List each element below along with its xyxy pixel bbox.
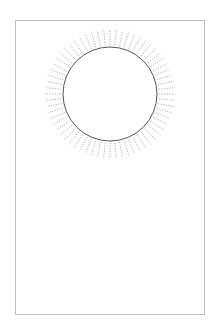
radial-tick bbox=[48, 75, 63, 80]
radial-tick bbox=[153, 117, 167, 125]
radial-tick bbox=[50, 113, 65, 119]
radial-tick bbox=[153, 63, 167, 71]
radial-tick bbox=[46, 104, 62, 107]
radial-tick bbox=[141, 132, 151, 144]
radial-tick bbox=[69, 132, 79, 144]
circle-diagram bbox=[0, 0, 224, 330]
radial-tick bbox=[148, 53, 160, 63]
radial-tick bbox=[124, 141, 129, 156]
radial-tick bbox=[115, 143, 117, 159]
radial-tick bbox=[45, 88, 61, 90]
radial-tick bbox=[79, 37, 87, 51]
radial-tick bbox=[120, 142, 123, 158]
radial-tick bbox=[141, 44, 151, 56]
radial-tick bbox=[50, 69, 65, 75]
circle-outline bbox=[63, 47, 157, 141]
radial-tick bbox=[97, 142, 100, 158]
radial-tick bbox=[85, 139, 91, 154]
radial-tick bbox=[129, 34, 135, 49]
radial-tick bbox=[91, 141, 96, 156]
radial-tick bbox=[133, 137, 141, 151]
radial-tick bbox=[157, 75, 172, 80]
radial-tick bbox=[124, 32, 129, 47]
radial-tick bbox=[157, 108, 172, 113]
radial-tick bbox=[97, 30, 100, 46]
radial-tick bbox=[79, 137, 87, 151]
radial-tick bbox=[45, 99, 61, 101]
radial-tick bbox=[115, 29, 117, 45]
radial-ticks bbox=[45, 29, 175, 159]
radial-tick bbox=[53, 117, 67, 125]
radial-tick bbox=[133, 37, 141, 51]
radial-tick bbox=[60, 125, 72, 135]
radial-tick bbox=[129, 139, 135, 154]
radial-tick bbox=[159, 88, 175, 90]
radial-tick bbox=[159, 99, 175, 101]
radial-tick bbox=[155, 113, 170, 119]
radial-tick bbox=[46, 81, 62, 84]
radial-tick bbox=[85, 34, 91, 49]
radial-tick bbox=[69, 44, 79, 56]
radial-tick bbox=[53, 63, 67, 71]
radial-tick bbox=[104, 29, 106, 45]
radial-tick bbox=[120, 30, 123, 46]
radial-tick bbox=[91, 32, 96, 47]
radial-tick bbox=[148, 125, 160, 135]
radial-tick bbox=[104, 143, 106, 159]
radial-tick bbox=[155, 69, 170, 75]
radial-tick bbox=[158, 81, 174, 84]
radial-tick bbox=[60, 53, 72, 63]
radial-tick bbox=[48, 108, 63, 113]
radial-tick bbox=[158, 104, 174, 107]
